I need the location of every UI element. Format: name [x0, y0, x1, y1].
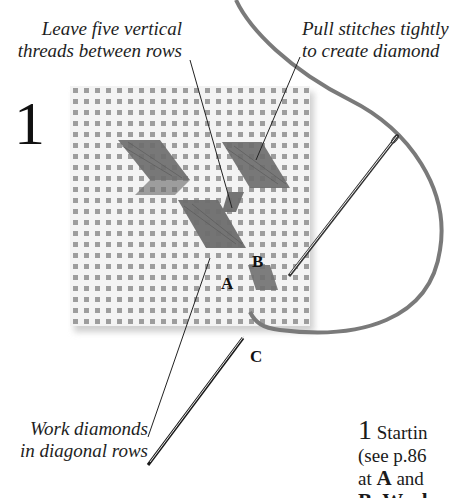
instruction-line-4: B. Work [358, 490, 455, 498]
point-label-c: C [250, 347, 262, 367]
needle-lower-highlight [150, 336, 244, 462]
instruction-line-2: (see p.86 [358, 444, 455, 467]
instruction-line-1: 1 Startin [358, 418, 455, 444]
instruction-line-1-text: Startin [377, 422, 428, 443]
instruction-line-3-pre: at [358, 468, 376, 489]
instruction-line-4-text: B. Work [358, 490, 433, 498]
point-label-b: B [252, 252, 263, 272]
instruction-line-3-post: and [392, 468, 424, 489]
instruction-text: 1 Startin (see p.86 at A and B. Work [358, 418, 455, 498]
point-label-a: A [221, 274, 233, 294]
instruction-step-number: 1 [358, 418, 372, 445]
instruction-point-a: A [376, 466, 391, 490]
instruction-line-3: at A and [358, 467, 455, 490]
